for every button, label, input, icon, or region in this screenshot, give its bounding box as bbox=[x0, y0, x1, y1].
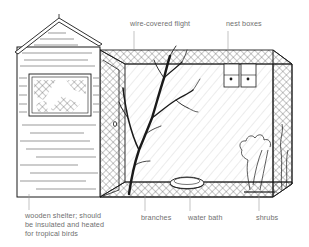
aviary-diagram bbox=[0, 0, 309, 247]
label-wire-covered-flight: wire-covered flight bbox=[130, 19, 190, 28]
label-wooden-shelter-line3: for tropical birds bbox=[25, 229, 135, 238]
shelter-window bbox=[29, 74, 91, 116]
label-wooden-shelter: wooden shelter; should be insulated and … bbox=[25, 211, 135, 238]
label-shrubs: shrubs bbox=[256, 213, 278, 222]
label-nest-boxes: nest boxes bbox=[226, 19, 262, 28]
wooden-shelter bbox=[15, 14, 102, 197]
label-branches: branches bbox=[141, 213, 171, 222]
door-handle-icon bbox=[113, 122, 116, 127]
label-water-bath: water bath bbox=[188, 213, 223, 222]
label-wooden-shelter-line1: wooden shelter; should bbox=[25, 211, 135, 220]
label-wooden-shelter-line2: be insulated and heated bbox=[25, 220, 135, 229]
water-bath bbox=[170, 177, 204, 189]
